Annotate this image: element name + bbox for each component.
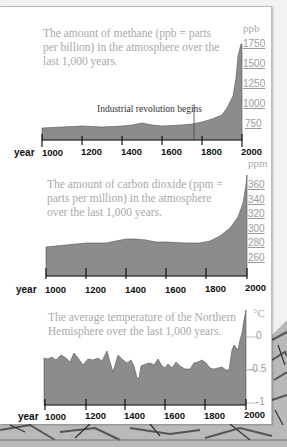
- temperature-year-label: 1800: [204, 410, 225, 421]
- methane-year-label: 1000: [42, 147, 63, 158]
- temperature-year-label: 1400: [124, 410, 145, 421]
- methane-x-axis-title: year: [14, 147, 35, 158]
- methane-caption-line: per billion) in the atmosphere over the: [43, 40, 219, 54]
- temperature-unit: °C: [253, 307, 265, 319]
- methane-year-label: 1400: [121, 146, 142, 157]
- co2-x-axis-title: year: [16, 284, 37, 295]
- methane-y-label: 750: [245, 118, 262, 129]
- co2-y-label: 280: [248, 237, 265, 248]
- co2-caption-line: parts per million) in the atmosphere: [47, 191, 223, 205]
- methane-y-label: 1250: [243, 78, 265, 89]
- co2-unit: ppm: [248, 157, 268, 169]
- methane-y-label: 1750: [243, 38, 265, 49]
- temperature-year-label: 1600: [164, 410, 185, 421]
- methane-y-label: 1500: [243, 58, 265, 69]
- co2-year-label: 2000: [245, 282, 266, 293]
- co2-year-label: 1400: [125, 284, 146, 295]
- industrial-revolution-label: Industrial revolution begins: [97, 104, 202, 114]
- temperature-y-label: 0: [256, 330, 262, 341]
- temperature-year-label: 2000: [244, 409, 265, 420]
- methane-year-label: 1800: [201, 146, 222, 157]
- co2-year-label: 1000: [45, 284, 66, 295]
- co2-year-label: 1600: [165, 284, 186, 295]
- co2-caption: The amount of carbon dioxide (ppm = part…: [47, 177, 223, 219]
- methane-year-label: 1200: [81, 146, 102, 157]
- methane-year-label: 2000: [241, 146, 262, 157]
- co2-year-label: 1200: [85, 284, 106, 295]
- co2-caption-line: The amount of carbon dioxide (ppm =: [47, 177, 223, 191]
- co2-year-label: 1800: [205, 283, 226, 294]
- methane-year-label: 1600: [161, 146, 182, 157]
- co2-y-label: 320: [248, 208, 265, 219]
- methane-unit: ppb: [243, 22, 260, 34]
- temperature-caption-line: The average temperature of the Northern: [48, 310, 236, 324]
- methane-caption-line: The amount of methane (ppb = parts: [43, 26, 219, 40]
- temperature-caption-line: Hemisphere over the last 1,000 years.: [48, 324, 236, 338]
- temperature-y-label: -0.5: [249, 363, 266, 374]
- temperature-caption: The average temperature of the Northern …: [48, 310, 236, 338]
- methane-caption: The amount of methane (ppb = parts per b…: [43, 26, 219, 68]
- methane-caption-line: last 1,000 years.: [43, 54, 219, 68]
- temperature-year-label: 1200: [85, 410, 106, 421]
- co2-caption-line: over the last 1,000 years.: [47, 205, 223, 219]
- co2-y-label: 260: [248, 252, 265, 263]
- co2-y-label: 360: [248, 179, 265, 190]
- co2-y-label: 300: [248, 223, 265, 234]
- temperature-y-label: -1: [256, 396, 265, 407]
- temperature-year-label: 1000: [45, 411, 66, 422]
- temperature-x-axis-title: year: [18, 411, 39, 422]
- methane-y-label: 1000: [243, 98, 265, 109]
- co2-y-label: 340: [248, 194, 265, 205]
